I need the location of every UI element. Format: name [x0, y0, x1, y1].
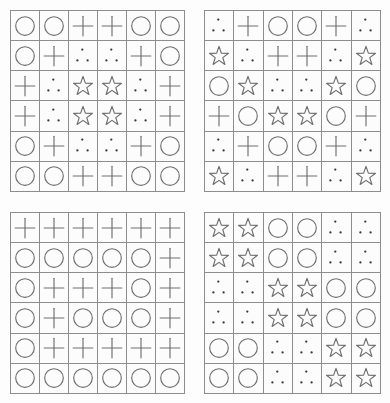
grid-cell[interactable]	[127, 162, 156, 192]
grid-cell[interactable]	[264, 162, 293, 192]
grid-cell[interactable]	[156, 162, 185, 192]
grid-cell[interactable]	[127, 213, 156, 243]
grid-cell[interactable]	[40, 71, 69, 101]
grid-cell[interactable]	[156, 303, 185, 333]
grid-cell[interactable]	[40, 303, 69, 333]
grid-cell[interactable]	[352, 334, 381, 364]
grid-cell[interactable]	[264, 71, 293, 101]
grid-cell[interactable]	[69, 273, 98, 303]
grid-cell[interactable]	[322, 71, 351, 101]
grid-cell[interactable]	[234, 334, 263, 364]
grid-cell[interactable]	[40, 334, 69, 364]
grid-cell[interactable]	[352, 101, 381, 131]
grid-cell[interactable]	[293, 101, 322, 131]
grid-cell[interactable]	[156, 101, 185, 131]
grid-cell[interactable]	[264, 334, 293, 364]
grid-cell[interactable]	[352, 41, 381, 71]
grid-cell[interactable]	[98, 334, 127, 364]
grid-cell[interactable]	[293, 162, 322, 192]
grid-cell[interactable]	[234, 162, 263, 192]
grid-cell[interactable]	[69, 71, 98, 101]
grid-cell[interactable]	[205, 364, 234, 394]
grid-cell[interactable]	[234, 303, 263, 333]
grid-cell[interactable]	[205, 101, 234, 131]
grid-cell[interactable]	[156, 132, 185, 162]
grid-cell[interactable]	[40, 11, 69, 41]
grid-cell[interactable]	[11, 41, 40, 71]
grid-cell[interactable]	[352, 162, 381, 192]
grid-cell[interactable]	[205, 273, 234, 303]
grid-cell[interactable]	[264, 132, 293, 162]
grid-cell[interactable]	[234, 71, 263, 101]
grid-cell[interactable]	[156, 71, 185, 101]
grid-cell[interactable]	[322, 334, 351, 364]
grid-cell[interactable]	[40, 162, 69, 192]
grid-cell[interactable]	[127, 243, 156, 273]
grid-cell[interactable]	[234, 273, 263, 303]
grid-cell[interactable]	[69, 303, 98, 333]
grid-cell[interactable]	[127, 273, 156, 303]
grid-cell[interactable]	[234, 213, 263, 243]
grid-cell[interactable]	[11, 132, 40, 162]
grid-cell[interactable]	[205, 334, 234, 364]
grid-cell[interactable]	[293, 41, 322, 71]
grid-cell[interactable]	[98, 11, 127, 41]
grid-cell[interactable]	[293, 243, 322, 273]
grid-cell[interactable]	[69, 132, 98, 162]
grid-cell[interactable]	[69, 162, 98, 192]
grid-cell[interactable]	[205, 71, 234, 101]
grid-cell[interactable]	[11, 71, 40, 101]
grid-cell[interactable]	[98, 101, 127, 131]
grid-cell[interactable]	[264, 213, 293, 243]
grid-cell[interactable]	[293, 364, 322, 394]
grid-cell[interactable]	[40, 213, 69, 243]
grid-cell[interactable]	[264, 41, 293, 71]
grid-cell[interactable]	[352, 11, 381, 41]
grid-cell[interactable]	[322, 243, 351, 273]
grid-cell[interactable]	[156, 243, 185, 273]
grid-cell[interactable]	[322, 273, 351, 303]
grid-cell[interactable]	[11, 213, 40, 243]
grid-cell[interactable]	[234, 132, 263, 162]
grid-cell[interactable]	[40, 101, 69, 131]
grid-cell[interactable]	[322, 162, 351, 192]
grid-cell[interactable]	[234, 243, 263, 273]
grid-cell[interactable]	[127, 71, 156, 101]
grid-cell[interactable]	[156, 334, 185, 364]
grid-cell[interactable]	[322, 41, 351, 71]
grid-cell[interactable]	[156, 364, 185, 394]
grid-cell[interactable]	[293, 213, 322, 243]
grid-cell[interactable]	[322, 101, 351, 131]
grid-cell[interactable]	[352, 303, 381, 333]
grid-cell[interactable]	[127, 101, 156, 131]
grid-cell[interactable]	[40, 243, 69, 273]
grid-cell[interactable]	[234, 41, 263, 71]
grid-cell[interactable]	[205, 243, 234, 273]
grid-cell[interactable]	[40, 273, 69, 303]
grid-cell[interactable]	[11, 11, 40, 41]
grid-cell[interactable]	[11, 303, 40, 333]
grid-cell[interactable]	[205, 41, 234, 71]
grid-cell[interactable]	[205, 303, 234, 333]
grid-cell[interactable]	[11, 364, 40, 394]
grid-cell[interactable]	[69, 101, 98, 131]
grid-cell[interactable]	[234, 364, 263, 394]
grid-cell[interactable]	[293, 11, 322, 41]
grid-cell[interactable]	[205, 213, 234, 243]
grid-cell[interactable]	[11, 162, 40, 192]
grid-cell[interactable]	[98, 303, 127, 333]
grid-cell[interactable]	[156, 41, 185, 71]
grid-cell[interactable]	[352, 243, 381, 273]
grid-cell[interactable]	[69, 11, 98, 41]
grid-cell[interactable]	[11, 243, 40, 273]
grid-cell[interactable]	[293, 132, 322, 162]
grid-cell[interactable]	[69, 243, 98, 273]
grid-cell[interactable]	[234, 11, 263, 41]
grid-cell[interactable]	[293, 71, 322, 101]
grid-cell[interactable]	[322, 213, 351, 243]
grid-cell[interactable]	[98, 213, 127, 243]
grid-cell[interactable]	[127, 334, 156, 364]
grid-cell[interactable]	[205, 11, 234, 41]
grid-cell[interactable]	[205, 162, 234, 192]
grid-cell[interactable]	[127, 303, 156, 333]
